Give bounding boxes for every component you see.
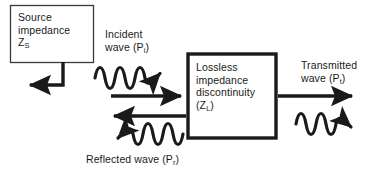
lossless-impedance-label: Lossless impedance discontinuity (ZL) [196,61,255,113]
incident-wave-line2-base: wave (P [105,41,144,53]
source-return-elbow-arrow [30,62,63,85]
main-box-symbol: (ZL) [196,99,255,114]
source-impedance-symbol-base: Z [18,36,25,48]
source-impedance-symbol-subscript: S [25,41,30,50]
incident-wave-line1: Incident [105,28,149,41]
transmitted-wave-line2-base: wave (P [301,72,340,84]
source-impedance-label: Source impedance ZS [18,11,70,51]
main-box-line2: impedance [196,74,255,87]
diagram-canvas: Source impedance ZS Incident wave (Pi) L… [0,0,376,172]
incident-wave-line2: wave (Pi) [105,41,149,56]
transmitted-wave-line2-end: ) [342,72,346,84]
reflected-wave-text: Reflected wave (Pr) [86,153,179,168]
reflected-wave-label: Reflected wave (Pr) [86,153,179,168]
source-impedance-symbol: ZS [18,36,70,51]
incident-wave-line2-end: ) [145,41,149,53]
reflected-wave-text-base: Reflected wave (P [86,153,173,165]
source-impedance-line2: impedance [18,24,70,37]
transmitted-wave-label: Transmitted wave (Pt) [301,59,357,86]
transmitted-wave-line1: Transmitted [301,59,357,72]
transmitted-wavy-arrow-right [296,114,351,135]
reflected-wave-text-end: ) [175,153,179,165]
incident-wave-label: Incident wave (Pi) [105,28,149,55]
reflected-wavy-arrow-left [118,124,183,145]
main-box-symbol-open: (Z [196,99,206,111]
main-box-line3: discontinuity [196,86,255,99]
main-box-symbol-subscript: L [206,104,210,113]
transmitted-wave-line2: wave (Pt) [301,72,357,87]
main-box-symbol-close: ) [210,99,214,111]
source-impedance-line1: Source [18,11,70,24]
incident-wavy-arrow-right [95,68,160,89]
transmitted-wave-subscript: t [340,77,342,86]
main-box-line1: Lossless [196,61,255,74]
